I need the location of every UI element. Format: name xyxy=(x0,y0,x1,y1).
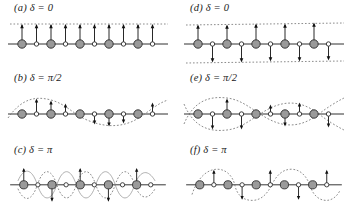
panel-e: (e) δ = π/2 xyxy=(176,70,351,142)
envelope-sine-upper xyxy=(184,98,344,125)
envelope-sine-lower xyxy=(184,103,344,130)
panel-c-diagram xyxy=(0,142,175,214)
heavy-atom xyxy=(310,110,318,118)
light-atom xyxy=(64,183,68,187)
panel-d: (d) δ = 0 xyxy=(176,0,351,72)
heavy-atom xyxy=(18,40,26,48)
light-atom xyxy=(149,183,153,187)
light-atom xyxy=(240,183,244,187)
heavy-atom xyxy=(196,181,204,189)
heavy-atom xyxy=(252,40,260,48)
heavy-atom xyxy=(134,40,142,48)
panel-b: (b) δ = π/2 xyxy=(0,70,175,142)
envelope-sine xyxy=(8,98,168,125)
panel-f: (f) δ = π xyxy=(176,142,351,214)
light-atom xyxy=(325,183,329,187)
light-atom xyxy=(34,112,38,116)
heavy-atom xyxy=(105,110,113,118)
heavy-atom xyxy=(76,181,84,189)
panel-b-diagram xyxy=(0,70,175,142)
heavy-atom xyxy=(76,40,84,48)
heavy-atom xyxy=(281,40,289,48)
heavy-atom xyxy=(194,40,202,48)
light-atom xyxy=(121,42,125,46)
light-atom xyxy=(326,42,330,46)
heavy-atom xyxy=(48,181,56,189)
light-atom xyxy=(92,183,96,187)
light-atom xyxy=(239,112,243,116)
heavy-atom xyxy=(133,181,141,189)
heavy-atom xyxy=(281,110,289,118)
arrow-group xyxy=(20,24,154,44)
light-atom xyxy=(36,183,40,187)
light-atom xyxy=(210,42,214,46)
heavy-atom xyxy=(47,40,55,48)
heavy-atom xyxy=(310,40,318,48)
panel-e-diagram xyxy=(176,70,351,142)
light-atom xyxy=(268,112,272,116)
light-atom xyxy=(268,42,272,46)
heavy-atom xyxy=(134,110,142,118)
heavy-atom xyxy=(309,181,317,189)
light-atom xyxy=(92,112,96,116)
heavy-atom xyxy=(104,181,112,189)
heavy-atom xyxy=(105,40,113,48)
light-atom xyxy=(63,42,67,46)
light-atom xyxy=(120,183,124,187)
panel-d-diagram xyxy=(176,0,351,72)
heavy-atom xyxy=(280,181,288,189)
light-atom xyxy=(210,112,214,116)
envelope-dashed-bottom xyxy=(186,61,344,63)
phonon-lattice-figure: (a) δ = 0 xyxy=(0,0,351,216)
light-atom xyxy=(297,42,301,46)
light-atom xyxy=(121,112,125,116)
heavy-atom xyxy=(252,181,260,189)
light-atom xyxy=(268,183,272,187)
light-atom xyxy=(63,112,67,116)
envelope-dashed-top xyxy=(186,23,344,25)
light-atom xyxy=(239,42,243,46)
light-atom xyxy=(212,183,216,187)
heavy-atom xyxy=(47,110,55,118)
heavy-atom xyxy=(224,181,232,189)
heavy-atom xyxy=(223,40,231,48)
panel-a-diagram xyxy=(0,0,175,72)
light-atom xyxy=(326,112,330,116)
heavy-atom xyxy=(20,181,28,189)
light-atom xyxy=(297,112,301,116)
light-atom xyxy=(296,183,300,187)
light-atom xyxy=(92,42,96,46)
light-atom xyxy=(34,42,38,46)
heavy-atom xyxy=(194,110,202,118)
heavy-atom xyxy=(76,110,84,118)
panel-f-diagram xyxy=(176,142,351,214)
panel-a: (a) δ = 0 xyxy=(0,0,175,72)
heavy-atom xyxy=(18,110,26,118)
heavy-atom xyxy=(252,110,260,118)
light-atom xyxy=(150,112,154,116)
light-atom xyxy=(150,42,154,46)
panel-c: (c) δ = π xyxy=(0,142,175,214)
heavy-atom xyxy=(223,110,231,118)
